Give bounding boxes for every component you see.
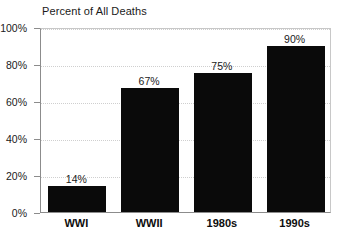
- chart-title: Percent of All Deaths: [42, 5, 147, 17]
- x-axis-tick-label: WWII: [113, 217, 186, 229]
- y-axis-tick-label: 40%: [0, 133, 27, 145]
- bar-chart: Percent of All Deaths 0%20%40%60%80%100%…: [0, 0, 345, 243]
- y-axis-tick-label: 0%: [0, 207, 27, 219]
- y-axis-tick-label: 80%: [0, 59, 27, 71]
- x-axis-tick-label: 1990s: [258, 217, 331, 229]
- x-axis-tick-label: 1980s: [186, 217, 259, 229]
- y-axis-tick-mark: [34, 213, 40, 214]
- bar[interactable]: [267, 46, 325, 213]
- x-axis-tick-label: WWI: [40, 217, 113, 229]
- bar-value-label: 75%: [193, 60, 251, 74]
- bar[interactable]: [194, 73, 252, 212]
- y-axis-tick-label: 60%: [0, 96, 27, 108]
- bar-value-label: 14%: [47, 173, 105, 187]
- bar[interactable]: [48, 186, 106, 212]
- y-axis-tick-label: 100%: [0, 22, 27, 34]
- bar-value-label: 67%: [120, 75, 178, 89]
- bar[interactable]: [121, 88, 179, 212]
- bar-value-label: 90%: [266, 33, 324, 47]
- y-axis-tick-label: 20%: [0, 170, 27, 182]
